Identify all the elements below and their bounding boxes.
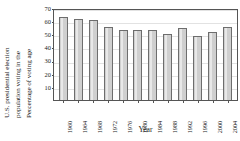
x-tick-mark <box>138 101 139 103</box>
y-axis-title-line-2: population voting in the <box>14 51 22 118</box>
y-tick-label: 40 <box>45 45 51 51</box>
bar <box>89 20 98 100</box>
x-tick-mark <box>183 101 184 103</box>
plot-area <box>53 9 238 101</box>
y-tick-label: 50 <box>45 32 51 38</box>
y-axis-title-line-3: Percentage of voting age <box>25 49 33 118</box>
x-tick-mark <box>168 101 169 103</box>
bar <box>223 27 232 100</box>
bar <box>104 27 113 100</box>
bar <box>163 34 172 100</box>
y-tick-label: 30 <box>45 58 51 64</box>
bar-chart: U.S. presidential election population vo… <box>0 0 240 141</box>
x-axis-title: Year <box>53 125 238 134</box>
x-tick-mark <box>78 101 79 103</box>
x-axis-ticks: 1960196419681972197619801984198819921996… <box>53 101 238 123</box>
x-tick-mark <box>123 101 124 103</box>
bar <box>193 36 202 100</box>
x-tick-mark <box>153 101 154 103</box>
bar <box>208 32 217 100</box>
bar <box>178 28 187 100</box>
x-tick-mark <box>63 101 64 103</box>
bar <box>133 30 142 100</box>
y-axis-title-line-1: U.S. presidential election <box>3 48 11 118</box>
y-tick-label: 10 <box>45 85 51 91</box>
y-axis-ticks: 70605040302010 <box>36 6 52 103</box>
y-tick-label: 70 <box>45 6 51 12</box>
bar <box>148 30 157 100</box>
bar <box>74 19 83 100</box>
bar-series <box>54 10 237 100</box>
y-axis-title: U.S. presidential election population vo… <box>0 0 40 120</box>
y-tick-label: 60 <box>45 19 51 25</box>
bar <box>59 17 68 100</box>
x-tick-mark <box>228 101 229 103</box>
x-tick-mark <box>108 101 109 103</box>
bar <box>119 30 128 100</box>
x-tick-mark <box>213 101 214 103</box>
x-tick-mark <box>93 101 94 103</box>
y-tick-label: 20 <box>45 72 51 78</box>
x-tick-mark <box>198 101 199 103</box>
